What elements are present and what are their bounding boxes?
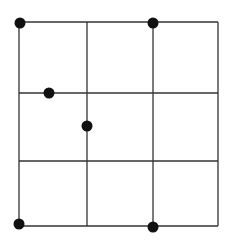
grid-lines — [19, 22, 218, 226]
point-1 — [148, 18, 159, 29]
point-5 — [148, 222, 159, 233]
point-0 — [15, 18, 26, 29]
point-2 — [44, 88, 55, 99]
point-3 — [82, 121, 93, 132]
grid-points — [14, 18, 159, 233]
grid-diagram — [0, 0, 233, 247]
point-4 — [14, 219, 25, 230]
